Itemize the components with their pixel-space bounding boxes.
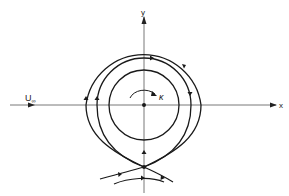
rotation-arrowhead-icon — [151, 91, 157, 96]
x-axis-arrow-icon — [270, 103, 277, 108]
lower-left-streamline — [100, 167, 173, 182]
x-axis-label: x — [279, 101, 283, 110]
free-stream-label: U∞ — [25, 93, 36, 104]
flow-arrow-icon — [142, 150, 147, 154]
y-axis-label: y — [141, 8, 145, 17]
y-axis-arrow-icon — [142, 16, 147, 24]
flow-arrow-icon — [182, 64, 186, 69]
stagnation-point — [142, 165, 146, 169]
bottom-streamline — [114, 178, 164, 184]
center-point — [142, 103, 146, 107]
flow-arrow-icon — [188, 92, 193, 96]
flow-arrow-icon — [95, 96, 100, 100]
outer-streamline — [86, 55, 201, 167]
rotation-arrow-icon — [130, 90, 155, 98]
diagram-canvas: U∞ y x κ — [0, 0, 289, 196]
circulation-label: κ — [159, 92, 164, 102]
flow-arrow-icon — [150, 56, 154, 61]
